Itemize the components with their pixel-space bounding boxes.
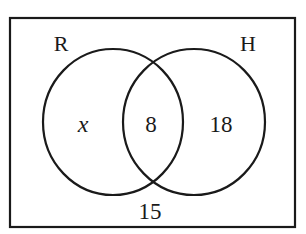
intersection-value: 8 — [145, 112, 157, 137]
venn-diagram: R H x 8 18 15 — [0, 0, 306, 234]
h-only-value: 18 — [210, 112, 233, 137]
set-h-label: H — [240, 31, 256, 56]
r-only-value: x — [77, 111, 89, 137]
set-r-label: R — [54, 31, 69, 56]
outside-value: 15 — [139, 199, 162, 224]
